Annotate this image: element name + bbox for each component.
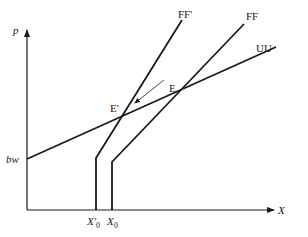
uu-curve (27, 47, 276, 159)
ff-label: FF (246, 10, 258, 22)
uu-label: UU (256, 42, 272, 54)
y-axis-label: p (12, 24, 19, 36)
ff-curve (112, 24, 244, 210)
point-e-label: E (169, 82, 176, 94)
diagram-canvas: p X UU FF FF' E E' bw X' 0 X 0 (0, 0, 308, 237)
point-e-prime-label: E' (110, 102, 119, 114)
bw-label: bw (6, 153, 20, 165)
ff-prime-label: FF' (178, 8, 192, 20)
svg-text:0: 0 (114, 221, 118, 230)
ff-prime-curve (96, 20, 182, 210)
x-axis-label: X (277, 204, 286, 216)
x0-prime-label: X' 0 (86, 215, 100, 230)
x0-label: X 0 (106, 215, 118, 230)
svg-text:0: 0 (96, 221, 100, 230)
